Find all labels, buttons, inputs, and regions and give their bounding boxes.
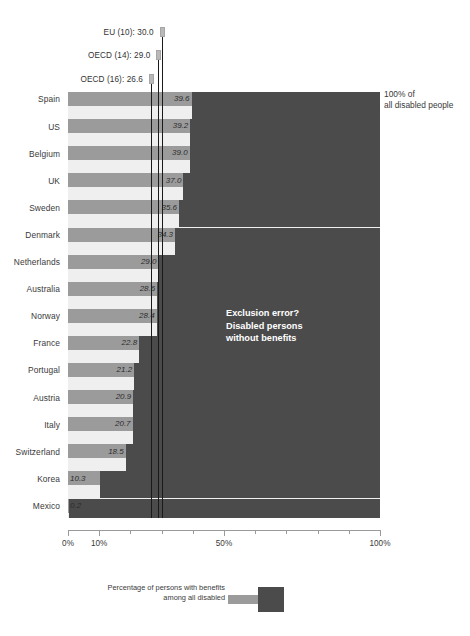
x-axis-tick (68, 530, 69, 536)
stacked-remainder-segment (126, 444, 380, 471)
bar-value-label: 20.9 (93, 392, 131, 401)
x-axis-tick (286, 530, 287, 534)
category-label-austria: Austria (0, 393, 60, 403)
legend-text: Percentage of persons with benefitsamong… (60, 583, 225, 602)
category-label-netherlands: Netherlands (0, 257, 60, 267)
category-label-sweden: Sweden (0, 203, 60, 213)
bar-value-label: 34.3 (135, 230, 173, 239)
category-label-us: US (0, 122, 60, 132)
bar-value-label: 10.3 (70, 474, 110, 483)
category-label-norway: Norway (0, 311, 60, 321)
reference-line-cap-oecd14 (156, 50, 161, 60)
category-label-spain: Spain (0, 94, 60, 104)
x-axis-tick (99, 530, 100, 536)
category-label-portugal: Portugal (0, 365, 60, 375)
exclusion-annotation-line-2: Disabled persons (226, 320, 303, 333)
reference-line-label-eu10: EU (10): 30.0 (22, 28, 154, 37)
bar-value-label: 39.2 (150, 121, 188, 130)
x-axis-tick (193, 530, 194, 534)
bar-value-label: 0.2 (70, 501, 110, 510)
legend-swatch-dark (258, 587, 284, 612)
x-axis-tick (318, 530, 319, 534)
reference-line-cap-oecd16 (149, 74, 154, 84)
x-axis: 0%10%50%100% (68, 530, 380, 554)
bar-segment (68, 499, 69, 513)
bar-value-label: 22.8 (99, 338, 137, 347)
total-annotation-line-1: 100% of (384, 89, 453, 100)
stacked-remainder-segment (133, 390, 380, 417)
exclusion-annotation-line-1: Exclusion error? (226, 307, 303, 320)
stacked-remainder-segment (134, 363, 380, 390)
stacked-remainder-segment (133, 417, 380, 444)
reference-line-label-oecd16: OECD (16): 26.6 (11, 75, 143, 84)
chart-root: 39.6Spain39.2US39.0Belgium37.0UK35.6Swed… (0, 0, 470, 636)
reference-line-cap-eu10 (160, 27, 165, 37)
stacked-remainder-segment (192, 92, 380, 119)
x-axis-tick-label: 10% (79, 539, 119, 548)
x-axis-tick (130, 530, 131, 534)
legend-text-line-2: among all disabled (60, 593, 225, 603)
bar-value-label: 39.6 (152, 94, 190, 103)
x-axis-tick (162, 530, 163, 534)
exclusion-annotation: Exclusion error?Disabled personswithout … (226, 307, 303, 345)
category-label-australia: Australia (0, 284, 60, 294)
category-label-belgium: Belgium (0, 149, 60, 159)
bar-value-label: 39.0 (150, 148, 188, 157)
stacked-remainder-segment (69, 499, 380, 519)
stacked-remainder-segment (158, 255, 380, 282)
bar-value-label: 18.5 (86, 447, 124, 456)
stacked-remainder-segment (100, 471, 380, 498)
x-axis-tick-label: 100% (360, 539, 400, 548)
legend-text-line-1: Percentage of persons with benefits (60, 583, 225, 593)
x-axis-tick (255, 530, 256, 534)
reference-line-oecd16 (151, 84, 152, 518)
total-annotation-line-2: all disabled people (384, 100, 453, 111)
total-annotation: 100% ofall disabled people (384, 89, 453, 111)
x-axis-tick (224, 530, 225, 536)
x-axis-tick-label: 50% (204, 539, 244, 548)
bar-value-label: 28.6 (117, 284, 155, 293)
category-label-italy: Italy (0, 420, 60, 430)
reference-line-eu10 (162, 37, 163, 518)
reference-line-label-oecd14: OECD (14): 29.0 (18, 51, 150, 60)
stacked-remainder-segment (175, 228, 380, 255)
bar-value-label: 28.4 (117, 311, 155, 320)
bar-value-label: 20.7 (93, 419, 131, 428)
stacked-remainder-segment (179, 200, 380, 227)
category-label-uk: UK (0, 176, 60, 186)
bar-value-label: 21.2 (94, 365, 132, 374)
reference-line-oecd14 (158, 60, 159, 518)
exclusion-annotation-line-3: without benefits (226, 332, 303, 345)
category-label-korea: Korea (0, 474, 60, 484)
x-axis-tick (380, 530, 381, 536)
stacked-remainder-segment (157, 282, 380, 309)
category-label-france: France (0, 338, 60, 348)
category-label-mexico: Mexico (0, 501, 60, 511)
legend-swatch-light (228, 595, 260, 604)
category-label-switzerland: Switzerland (0, 447, 60, 457)
x-axis-tick (349, 530, 350, 534)
stacked-remainder-segment (190, 146, 380, 173)
category-label-denmark: Denmark (0, 230, 60, 240)
stacked-remainder-segment (183, 173, 380, 200)
stacked-remainder-segment (190, 119, 380, 146)
